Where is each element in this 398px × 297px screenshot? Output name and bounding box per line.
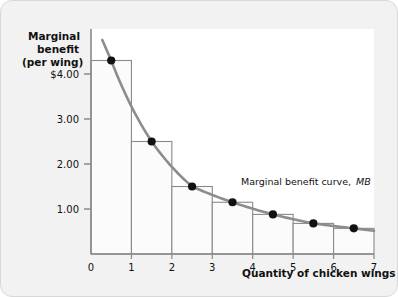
bar: [293, 223, 333, 254]
bar: [212, 202, 252, 254]
data-point: [350, 224, 358, 232]
x-tick-label: 0: [88, 262, 94, 273]
curve-annotation-symbol: MB: [356, 176, 371, 187]
y-tick-label: 1.00: [57, 204, 79, 215]
y-axis-title-line-2: benefit: [37, 43, 79, 55]
x-tick-label: 3: [209, 262, 215, 273]
bar: [91, 61, 131, 255]
data-point: [107, 56, 115, 64]
y-tick-label: 2.00: [57, 159, 79, 170]
y-tick-label: 3.00: [57, 114, 79, 125]
x-axis-title: Quantity of chicken wings: [242, 267, 396, 279]
bar: [253, 214, 293, 254]
data-point: [228, 198, 236, 206]
x-tick-label: 1: [128, 262, 134, 273]
data-point: [269, 210, 277, 218]
y-tick-label: $4.00: [50, 69, 79, 80]
y-axis-ticks: $4.003.002.001.00: [50, 69, 91, 215]
y-axis-title-line-1: Marginal: [28, 30, 80, 42]
y-axis-title-line-3: (per wing): [22, 56, 83, 68]
data-point: [309, 219, 317, 227]
figure-card: $4.003.002.001.00 01234567 Marginal bene…: [0, 0, 398, 297]
data-point: [188, 182, 196, 190]
marginal-benefit-chart: $4.003.002.001.00 01234567 Marginal bene…: [1, 1, 398, 297]
data-point: [148, 137, 156, 145]
bar: [172, 187, 212, 255]
curve-annotation-label: Marginal benefit curve,: [241, 176, 351, 187]
x-tick-label: 2: [169, 262, 175, 273]
